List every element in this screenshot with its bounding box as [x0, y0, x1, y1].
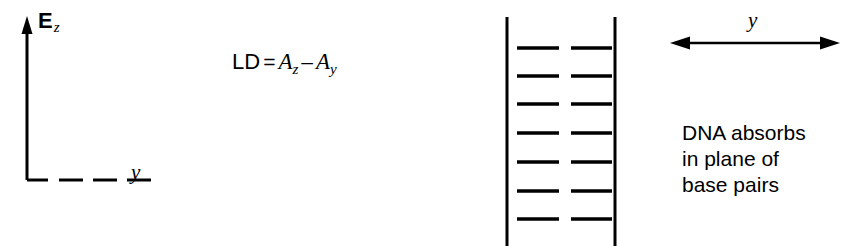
- linear-dichroism-equation: LD=Az–Ay: [232, 50, 337, 77]
- equation-minus-sign: –: [301, 50, 313, 73]
- vertical-axis-label: Ez: [38, 10, 60, 35]
- linear-dichroism-figure: Ez y LD=Az–Ay y DNA absorbs in plane of …: [0, 0, 865, 246]
- arrowhead-right: [820, 37, 840, 50]
- arrowhead-left: [670, 37, 690, 50]
- caption-line-1: DNA absorbs: [682, 120, 806, 146]
- equation-term2-base: A: [316, 49, 330, 74]
- equation-term2-subscript: y: [330, 61, 337, 77]
- caption-line-2: in plane of: [682, 146, 806, 172]
- equation-term1-base: A: [278, 49, 292, 74]
- equation-lhs: LD: [232, 49, 260, 74]
- y-direction-arrow: [660, 28, 850, 58]
- dna-base-pair-rungs: [517, 48, 612, 219]
- dna-duplex-diagram: [490, 0, 635, 246]
- arrow-y-label: y: [748, 10, 757, 31]
- vertical-axis-arrowhead: [22, 16, 33, 34]
- vertical-axis-label-subscript: z: [54, 19, 60, 35]
- coordinate-axes: [0, 0, 200, 246]
- vertical-axis-label-base: E: [38, 8, 53, 33]
- equation-equals-sign: =: [263, 50, 275, 73]
- equation-term1-subscript: z: [292, 61, 298, 77]
- dna-absorption-caption: DNA absorbs in plane of base pairs: [682, 120, 806, 198]
- caption-line-3: base pairs: [682, 172, 806, 198]
- horizontal-axis-label: y: [131, 162, 140, 183]
